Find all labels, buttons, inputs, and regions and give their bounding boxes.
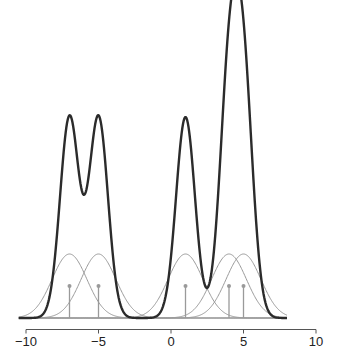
x-tick-label: 10 bbox=[309, 334, 323, 349]
chart-canvas: −10−50510 bbox=[0, 0, 341, 361]
x-tick-label: 0 bbox=[167, 334, 174, 349]
x-axis: −10−50510 bbox=[15, 330, 323, 349]
component-curve bbox=[19, 254, 287, 318]
stem-marker bbox=[97, 284, 101, 288]
x-tick-label: 5 bbox=[240, 334, 247, 349]
component-gaussians bbox=[19, 254, 287, 318]
stem-markers bbox=[68, 284, 246, 318]
x-tick-label: −5 bbox=[91, 334, 106, 349]
stem-marker bbox=[184, 284, 188, 288]
component-curve bbox=[19, 254, 287, 318]
stem-marker bbox=[242, 284, 246, 288]
composite-curve bbox=[19, 0, 287, 318]
component-curve bbox=[19, 254, 287, 318]
x-axis-ticks: −10−50510 bbox=[15, 330, 323, 349]
stem-marker bbox=[227, 284, 231, 288]
component-curve bbox=[19, 254, 287, 318]
x-tick-label: −10 bbox=[15, 334, 37, 349]
stem-marker bbox=[68, 284, 72, 288]
component-curve bbox=[19, 254, 287, 318]
